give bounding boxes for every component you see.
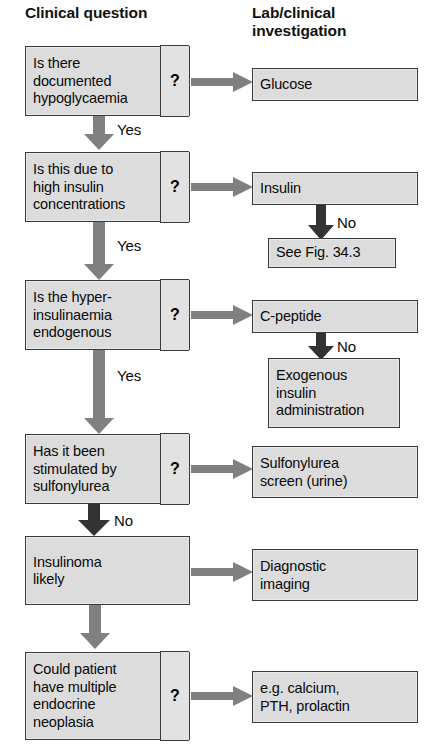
edge-label-no-insulinoma: No [114, 513, 133, 529]
question-box-hypoglycaemia[interactable]: Is there documented hypoglycaemia ? [25, 46, 190, 116]
arrow-q2-to-q3-yes [84, 222, 114, 280]
investigation-box-glucose[interactable]: Glucose [252, 68, 418, 101]
question-mark-icon: ? [160, 151, 189, 222]
arrow-q3-to-q4-yes [84, 350, 114, 434]
edge-label-no-see-fig: No [337, 215, 356, 231]
question-mark-icon: ? [160, 45, 189, 116]
question-box-multiple-endocrine-neoplasia[interactable]: Could patient have multiple endocrine ne… [25, 652, 190, 740]
investigation-box-diagnostic-imaging[interactable]: Diagnostic imaging [252, 549, 418, 601]
question-box-endogenous-hyperinsulinaemia[interactable]: Is the hyper- insulinaemia endogenous ? [25, 280, 190, 350]
investigation-box-exogenous-insulin[interactable]: Exogenous insulin administration [268, 358, 400, 428]
question-box-sulfonylurea-stimulated[interactable]: Has it been stimulated by sulfonylurea ? [25, 434, 190, 504]
arrow-insulinoma-to-diagnostic-imaging [191, 562, 253, 582]
column-heading-lab-clinical-investigation: Lab/clinical investigation [252, 4, 346, 40]
arrow-c-peptide-to-exogenous-no [308, 333, 334, 360]
column-heading-clinical-question: Clinical question [25, 4, 147, 22]
arrow-q2-to-insulin [191, 177, 253, 197]
investigation-box-glucose-label: Glucose [260, 76, 312, 94]
question-box-high-insulin[interactable]: Is this due to high insulin concentratio… [25, 152, 190, 222]
flowchart-canvas: Clinical question Lab/clinical investiga… [0, 0, 435, 756]
investigation-box-insulin[interactable]: Insulin [252, 172, 418, 205]
conclusion-box-insulinoma-likely[interactable]: Insulinoma likely [25, 536, 190, 605]
investigation-box-exogenous-insulin-label: Exogenous insulin administration [276, 367, 364, 420]
arrow-q1-to-q2-yes [84, 116, 114, 150]
question-mark-icon: ? [160, 651, 189, 740]
question-mark-icon: ? [160, 279, 189, 350]
question-box-sulfonylurea-stimulated-label: Has it been stimulated by sulfonylurea [33, 443, 116, 496]
investigation-box-sulfonylurea-screen[interactable]: Sulfonylurea screen (urine) [252, 446, 418, 498]
arrow-q4-to-sulfonylurea-screen [191, 459, 253, 479]
question-box-hypoglycaemia-label: Is there documented hypoglycaemia [33, 55, 128, 108]
edge-label-no-exogenous: No [337, 339, 356, 355]
conclusion-box-insulinoma-likely-label: Insulinoma likely [33, 553, 102, 588]
question-mark-icon: ? [160, 433, 189, 504]
investigation-box-calcium-pth-prolactin[interactable]: e.g. calcium, PTH, prolactin [252, 671, 418, 723]
edge-label-yes-3: Yes [117, 368, 141, 384]
investigation-box-sulfonylurea-screen-label: Sulfonylurea screen (urine) [260, 455, 347, 490]
question-box-multiple-endocrine-neoplasia-label: Could patient have multiple endocrine ne… [33, 661, 117, 731]
arrow-q4-to-insulinoma-no [78, 504, 110, 536]
investigation-box-diagnostic-imaging-label: Diagnostic imaging [260, 558, 326, 593]
edge-label-yes-2: Yes [117, 238, 141, 254]
arrow-q1-to-glucose [191, 72, 253, 92]
arrow-insulinoma-to-men-question [80, 605, 110, 649]
arrow-q3-to-c-peptide [191, 305, 253, 325]
investigation-box-c-peptide[interactable]: C-peptide [252, 300, 418, 333]
arrow-q6-to-calcium-pth-prolactin [191, 686, 253, 706]
edge-label-yes-1: Yes [117, 122, 141, 138]
investigation-box-see-figure[interactable]: See Fig. 34.3 [268, 238, 396, 268]
investigation-box-calcium-pth-prolactin-label: e.g. calcium, PTH, prolactin [260, 680, 350, 715]
investigation-box-c-peptide-label: C-peptide [260, 308, 322, 326]
question-box-high-insulin-label: Is this due to high insulin concentratio… [33, 161, 125, 214]
investigation-box-see-figure-label: See Fig. 34.3 [276, 244, 360, 262]
arrow-insulin-to-see-fig-no [308, 205, 334, 240]
investigation-box-insulin-label: Insulin [260, 180, 301, 198]
question-box-endogenous-hyperinsulinaemia-label: Is the hyper- insulinaemia endogenous [33, 289, 112, 342]
